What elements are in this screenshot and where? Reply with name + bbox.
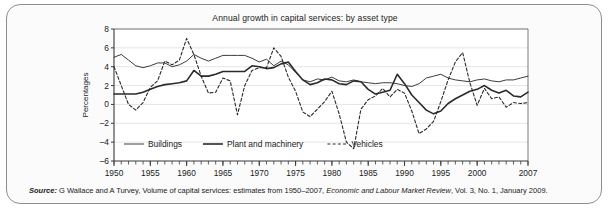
x-axis-tick-label: 2007 bbox=[519, 168, 538, 178]
x-axis-tick-label: 1970 bbox=[250, 168, 269, 178]
x-axis-tick-label: 1960 bbox=[177, 168, 196, 178]
y-axis-tick-label: 6 bbox=[104, 43, 109, 53]
y-axis-title: Percentages bbox=[81, 73, 90, 118]
y-axis-tick-label: 4 bbox=[104, 62, 109, 72]
x-axis-tick-label: 1990 bbox=[395, 168, 414, 178]
y-axis-tick-label: –6 bbox=[100, 156, 110, 166]
y-axis-tick-label: 2 bbox=[104, 81, 109, 91]
chart-plot-area: 86420–2–4–6Percentages195019551960196519… bbox=[7, 5, 603, 205]
source-body-last: , Vol. 3, No. 1, January 2009. bbox=[451, 186, 548, 195]
figure-card: Annual growth in capital services: by as… bbox=[6, 4, 602, 204]
x-axis-tick-label: 1975 bbox=[286, 168, 305, 178]
source-body-first: G Wallace and A Turvey, Volume of capita… bbox=[57, 186, 326, 195]
x-axis-tick-label: 1965 bbox=[214, 168, 233, 178]
y-axis-tick-label: 8 bbox=[104, 24, 109, 34]
legend-label-plant-and-machinery: Plant and machinery bbox=[227, 139, 304, 149]
x-axis-tick-label: 1950 bbox=[105, 168, 124, 178]
x-axis-tick-label: 1995 bbox=[432, 168, 451, 178]
x-axis-tick-label: 1955 bbox=[141, 168, 160, 178]
y-axis-tick-label: 0 bbox=[104, 99, 109, 109]
legend-label-vehicles: Vehicles bbox=[351, 139, 382, 149]
y-axis-tick-label: –2 bbox=[100, 118, 110, 128]
source-journal-title: Economic and Labour Market Review bbox=[326, 186, 451, 195]
legend-label-buildings: Buildings bbox=[148, 139, 182, 149]
x-axis-tick-label: 1980 bbox=[323, 168, 342, 178]
chart-svg: 86420–2–4–6Percentages195019551960196519… bbox=[7, 5, 603, 205]
y-axis-tick-label: –4 bbox=[100, 137, 110, 147]
x-axis-tick-label: 1985 bbox=[359, 168, 378, 178]
source-note: Source: G Wallace and A Turvey, Volume o… bbox=[29, 186, 599, 195]
source-label: Source: bbox=[29, 186, 57, 195]
x-axis-tick-label: 2000 bbox=[468, 168, 487, 178]
